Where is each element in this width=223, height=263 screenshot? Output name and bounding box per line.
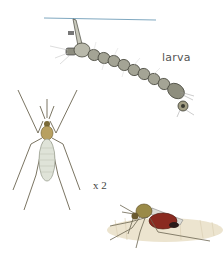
larva-figure: [50, 19, 194, 117]
mosquito-drawing: [0, 0, 223, 263]
water-surface-line: [44, 18, 156, 20]
larva-label: larva: [162, 51, 191, 64]
adult-mosquito-dorsal-body: [39, 121, 55, 181]
magnification-label: x 2: [93, 179, 107, 191]
feeding-mosquito-figure: [107, 204, 223, 248]
